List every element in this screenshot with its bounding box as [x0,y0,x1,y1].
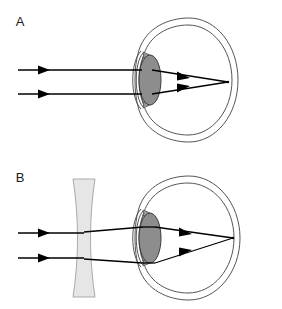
panel-a-crystalline-lens [139,55,161,105]
panel-b-focal-point [232,237,234,239]
panel-b-label: B [16,170,25,185]
panel-a-label: A [16,14,25,29]
panel-a-focal-point [227,81,229,83]
panel-b-crystalline-lens [139,213,161,263]
diagram-canvas: A [0,0,282,309]
eye-diagram-figure: A [0,0,282,309]
